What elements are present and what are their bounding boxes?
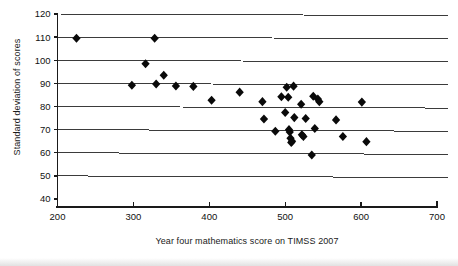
data-point [236, 88, 244, 97]
x-tick-label-400: 400 [201, 211, 217, 222]
y-tick-label-100: 100 [35, 55, 51, 66]
y-tick-label-110: 110 [35, 32, 50, 43]
data-point [258, 97, 266, 106]
x-tick-label-500: 500 [277, 211, 293, 222]
data-points-group [72, 34, 370, 160]
data-point [172, 81, 180, 90]
data-point [189, 82, 197, 91]
data-point [302, 114, 310, 123]
data-point [339, 132, 347, 141]
x-tick-label-300: 300 [125, 211, 141, 222]
y-tick-label-80: 80 [40, 101, 51, 112]
data-point [362, 137, 370, 146]
x-axis-ticks-group: 200300400500600700 [50, 202, 445, 222]
data-point [289, 82, 297, 91]
data-point [284, 93, 292, 102]
data-point [128, 81, 136, 90]
data-point [311, 124, 319, 133]
gridline-y-60 [58, 153, 449, 155]
gridline-y-70 [58, 130, 449, 132]
x-tick-label-700: 700 [429, 211, 445, 222]
gridline-y-50 [58, 176, 449, 178]
scatter-plot-figure: Standard deviation of scores Year four m… [0, 0, 458, 266]
gridline-y-80 [58, 107, 449, 109]
data-point [260, 114, 268, 123]
gridline-y-100 [58, 60, 449, 62]
data-point [358, 98, 366, 107]
data-point [271, 127, 279, 136]
plot-canvas: 405060708090100110120 200300400500600700 [0, 0, 458, 266]
data-point [151, 34, 159, 43]
y-tick-label-50: 50 [40, 170, 51, 181]
y-tick-label-40: 40 [40, 193, 51, 204]
data-point [332, 115, 340, 124]
data-point [160, 71, 168, 80]
y-tick-label-70: 70 [40, 124, 51, 135]
y-tick-label-90: 90 [40, 78, 51, 89]
y-tick-label-120: 120 [35, 8, 51, 19]
gridline-y-90 [58, 83, 449, 85]
gridline-y-120 [58, 14, 449, 16]
x-tick-label-600: 600 [353, 211, 369, 222]
axes-group [56, 14, 439, 207]
data-point [281, 108, 289, 117]
data-point [152, 80, 160, 89]
gridline-y-110 [58, 37, 449, 39]
data-point [277, 92, 285, 101]
data-point [72, 34, 80, 43]
data-point [207, 96, 215, 105]
y-tick-label-60: 60 [40, 147, 51, 158]
y-axis-ticks-group: 405060708090100110120 [35, 8, 58, 204]
gridlines-group [58, 14, 449, 177]
x-tick-label-200: 200 [50, 211, 66, 222]
data-point [308, 151, 316, 160]
data-point [290, 113, 298, 122]
